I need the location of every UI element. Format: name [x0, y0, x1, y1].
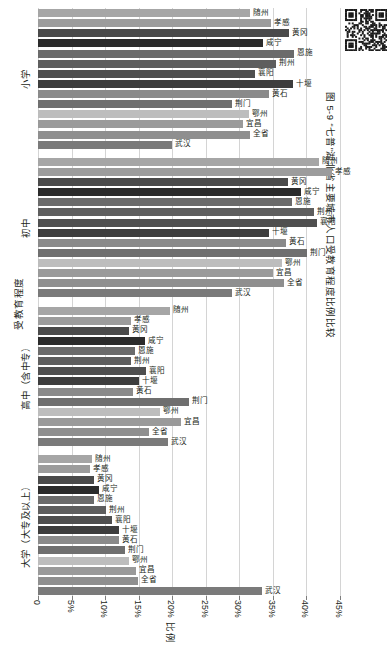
- bar-大学（大专及以上）-随州: [38, 455, 92, 463]
- bar-小学-恩施: [38, 50, 294, 58]
- bar-row: 十堰: [38, 377, 340, 385]
- bar-row: 黄石: [38, 239, 340, 247]
- bar-高中（含中专）-武汉: [38, 438, 168, 446]
- bar-label: 恩施: [294, 47, 313, 59]
- bar-label: 黄冈: [289, 27, 308, 39]
- y-axis-title: 受教育程度: [11, 277, 25, 330]
- bar-row: 宜昌: [38, 120, 340, 128]
- bar-小学-鄂州: [38, 110, 249, 118]
- bar-小学-荆门: [38, 100, 232, 108]
- bar-row: 襄阳: [38, 367, 340, 375]
- bar-高中（含中专）-黄冈: [38, 327, 129, 335]
- bar-row: 武汉: [38, 141, 340, 149]
- bar-初中-宜昌: [38, 269, 273, 277]
- bar-label: 武汉: [232, 287, 251, 299]
- bar-label: 随州: [170, 304, 189, 316]
- bar-label: 全省: [138, 574, 157, 586]
- bar-初中-黄冈: [38, 178, 288, 186]
- bar-row: 鄂州: [38, 110, 340, 118]
- bar-row: 荆门: [38, 100, 340, 108]
- bar-row: 孝感: [38, 317, 340, 325]
- bar-大学（大专及以上）-鄂州: [38, 557, 129, 565]
- qr-code-icon: [345, 9, 387, 51]
- group-label-高中（含中专）: 高中（含中专）: [18, 343, 32, 410]
- bar-row: 黄冈: [38, 327, 340, 335]
- bar-初中-鄂州: [38, 259, 282, 267]
- bar-row: 恩施: [38, 496, 340, 504]
- bar-高中（含中专）-孝感: [38, 317, 131, 325]
- bar-label: 全省: [284, 277, 303, 289]
- bar-大学（大专及以上）-荆州: [38, 506, 106, 514]
- bar-row: 随州: [38, 9, 340, 17]
- bar-row: 襄阳: [38, 516, 340, 524]
- bar-大学（大专及以上）-武汉: [38, 587, 262, 595]
- bar-小学-襄阳: [38, 70, 255, 78]
- bar-高中（含中专）-十堰: [38, 377, 139, 385]
- bar-row: 荆州: [38, 506, 340, 514]
- bar-高中（含中专）-全省: [38, 428, 149, 436]
- bar-label: 黄石: [133, 385, 152, 397]
- bar-大学（大专及以上）-荆门: [38, 546, 125, 554]
- bar-初中-荆州: [38, 208, 314, 216]
- bar-label: 黄石: [269, 88, 288, 100]
- bar-大学（大专及以上）-咸宁: [38, 486, 99, 494]
- bar-row: 宜昌: [38, 418, 340, 426]
- bar-label: 宜昌: [181, 416, 200, 428]
- bar-小学-荆州: [38, 60, 276, 68]
- bar-高中（含中专）-随州: [38, 307, 170, 315]
- bar-大学（大专及以上）-宜昌: [38, 567, 136, 575]
- bar-row: 全省: [38, 428, 340, 436]
- bar-row: 鄂州: [38, 557, 340, 565]
- bar-小学-武汉: [38, 141, 172, 149]
- bar-row: 咸宁: [38, 486, 340, 494]
- bar-row: 鄂州: [38, 259, 340, 267]
- x-axis-title: 比例: [164, 622, 178, 643]
- bar-大学（大专及以上）-孝感: [38, 465, 90, 473]
- bar-小学-随州: [38, 9, 250, 17]
- bar-row: 咸宁: [38, 337, 340, 345]
- bar-label: 咸宁: [263, 37, 282, 49]
- bar-大学（大专及以上）-全省: [38, 577, 138, 585]
- x-tick-label-45%: 45%: [334, 600, 344, 618]
- bar-row: 十堰: [38, 526, 340, 534]
- bar-row: 黄冈: [38, 178, 340, 186]
- bar-row: 黄石: [38, 90, 340, 98]
- bar-label: 十堰: [269, 226, 288, 238]
- gridline-45%: [340, 8, 341, 596]
- plot-area: 随州孝感黄冈咸宁恩施荆州襄阳十堰黄石荆门鄂州宜昌全省武汉随州孝感黄冈咸宁恩施荆州…: [38, 8, 340, 596]
- bar-label: 孝感: [332, 166, 351, 178]
- bar-row: 荆州: [38, 60, 340, 68]
- bar-label: 武汉: [168, 436, 187, 448]
- bar-label: 荆门: [232, 98, 251, 110]
- bar-label: 荆州: [276, 57, 295, 69]
- bar-初中-随州: [38, 158, 319, 166]
- bar-小学-孝感: [38, 19, 271, 27]
- x-tick-label-20%: 20%: [166, 600, 176, 618]
- bar-label: 鄂州: [160, 405, 179, 417]
- bar-label: 十堰: [293, 78, 312, 90]
- bar-大学（大专及以上）-恩施: [38, 496, 94, 504]
- bar-高中（含中专）-鄂州: [38, 408, 160, 416]
- bar-label: 全省: [250, 128, 269, 140]
- bar-row: 武汉: [38, 587, 340, 595]
- bar-row: 全省: [38, 279, 340, 287]
- bar-高中（含中专）-荆州: [38, 357, 131, 365]
- group-label-初中: 初中: [18, 218, 32, 237]
- bar-大学（大专及以上）-十堰: [38, 526, 119, 534]
- bar-row: 宜昌: [38, 567, 340, 575]
- bar-label: 黄石: [286, 236, 305, 248]
- bar-row: 全省: [38, 577, 340, 585]
- bar-label: 全省: [149, 426, 168, 438]
- bar-row: 黄石: [38, 536, 340, 544]
- bar-row: 荆门: [38, 546, 340, 554]
- bar-label: 武汉: [172, 138, 191, 150]
- bar-小学-十堰: [38, 80, 293, 88]
- bar-label: 荆门: [307, 247, 326, 259]
- x-tick-label-30%: 30%: [233, 600, 243, 618]
- bar-高中（含中专）-襄阳: [38, 367, 146, 375]
- bar-label: 恩施: [292, 196, 311, 208]
- bar-小学-全省: [38, 131, 250, 139]
- bar-label: 武汉: [262, 585, 281, 597]
- bar-label: 襄阳: [317, 216, 336, 228]
- bar-row: 随州: [38, 455, 340, 463]
